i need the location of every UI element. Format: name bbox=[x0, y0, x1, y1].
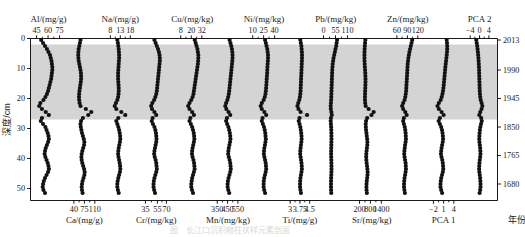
tick-label: 550 bbox=[232, 205, 244, 214]
data-point bbox=[369, 113, 373, 117]
tick-label: 20 bbox=[187, 26, 195, 35]
tick-label: 32 bbox=[198, 26, 206, 35]
data-point bbox=[154, 113, 158, 117]
depth-axis-label: 深度/cm bbox=[1, 103, 12, 136]
tick-label: 4 bbox=[452, 205, 456, 214]
panel-title-Al: Al/(mg/g) bbox=[30, 14, 66, 24]
panel-title-Cu: Cu/(mg/kg) bbox=[171, 14, 213, 24]
tick-label: 13 bbox=[116, 26, 124, 35]
data-point bbox=[263, 191, 267, 195]
panel-title-PCA2: PCA 2 bbox=[468, 14, 492, 24]
tick-label: −2 bbox=[429, 205, 438, 214]
tick-label: 40 bbox=[70, 205, 78, 214]
tick-label: 120 bbox=[412, 26, 424, 35]
data-point bbox=[114, 107, 118, 111]
data-point bbox=[123, 113, 127, 117]
year-tick-label: 1990 bbox=[503, 66, 519, 75]
data-point bbox=[440, 191, 444, 195]
panel-title-Ti: Ti/(mg/g) bbox=[283, 215, 318, 225]
tick-label: 0 bbox=[321, 26, 325, 35]
data-point bbox=[365, 191, 369, 195]
data-point bbox=[192, 113, 196, 117]
tick-label: 8 bbox=[179, 26, 183, 35]
tick-label: 70 bbox=[162, 205, 170, 214]
panel-title-Cr: Cr/(mg/kg) bbox=[136, 215, 177, 225]
tick-label: 8 bbox=[108, 26, 112, 35]
tick-label: 45 bbox=[32, 26, 40, 35]
data-point bbox=[227, 191, 231, 195]
data-point bbox=[228, 113, 232, 117]
tick-label: −4 bbox=[466, 26, 475, 35]
tick-label: 1 bbox=[442, 205, 446, 214]
data-point bbox=[119, 110, 123, 114]
depth-tick-label: 0 bbox=[21, 34, 25, 43]
year-tick-label: 2013 bbox=[503, 36, 519, 45]
year-tick-label: 1680 bbox=[503, 180, 519, 189]
data-point bbox=[403, 191, 407, 195]
tick-label: 40 bbox=[270, 26, 278, 35]
tick-label: 3 bbox=[288, 205, 292, 214]
tick-label: 0 bbox=[477, 26, 481, 35]
data-point bbox=[44, 110, 48, 114]
panel-title-Zn: Zn/(mg/kg) bbox=[387, 14, 429, 24]
year-tick-label: 1765 bbox=[503, 151, 519, 160]
tick-label: 25 bbox=[260, 26, 268, 35]
year-axis: 201319901945185017651680年份 bbox=[498, 36, 525, 225]
panel-title-Ni: Ni/(mg/kg) bbox=[244, 14, 285, 24]
figure-caption: 图 长江口沉积物柱状样元素剖面 bbox=[170, 225, 290, 235]
data-point bbox=[364, 104, 368, 108]
shaded-interval-band bbox=[31, 45, 498, 120]
panel-title-Pb: Pb/(mg/kg) bbox=[315, 14, 356, 24]
depth-tick-label: 20 bbox=[17, 94, 25, 103]
data-point bbox=[89, 110, 93, 114]
tick-label: 75 bbox=[55, 26, 63, 35]
depth-axis: 01020304050深度/cm bbox=[1, 34, 31, 193]
tick-label: 110 bbox=[342, 26, 354, 35]
tick-label: 110 bbox=[89, 205, 101, 214]
depth-tick-label: 30 bbox=[17, 124, 25, 133]
data-point bbox=[305, 113, 309, 117]
tick-label: 35 bbox=[141, 205, 149, 214]
tick-label: 75 bbox=[80, 205, 88, 214]
chart-canvas: 456075Al/(mg/g)4075110Ca/(mg/g)81318Na/(… bbox=[0, 0, 525, 237]
data-point bbox=[117, 191, 121, 195]
data-point bbox=[298, 110, 302, 114]
tick-label: 4.5 bbox=[305, 205, 315, 214]
data-point bbox=[264, 113, 268, 117]
figure-root: 456075Al/(mg/g)4075110Ca/(mg/g)81318Na/(… bbox=[0, 0, 525, 237]
year-tick-label: 1945 bbox=[503, 94, 519, 103]
panel-title-Sr: Sr/(mg/kg) bbox=[352, 215, 392, 225]
tick-label: 10 bbox=[249, 26, 257, 35]
data-point bbox=[442, 113, 446, 117]
tick-label: 55 bbox=[153, 205, 161, 214]
depth-tick-label: 50 bbox=[17, 184, 25, 193]
tick-label: 90 bbox=[403, 26, 411, 35]
data-point bbox=[40, 107, 44, 111]
panel-title-Ca: Ca/(mg/g) bbox=[66, 215, 103, 225]
data-point bbox=[78, 104, 82, 108]
data-point bbox=[43, 191, 47, 195]
year-tick-label: 1850 bbox=[503, 123, 519, 132]
panel-title-PCA1: PCA 1 bbox=[432, 215, 456, 225]
data-point bbox=[367, 107, 371, 111]
data-point bbox=[86, 113, 90, 117]
data-point bbox=[191, 191, 195, 195]
data-point bbox=[80, 191, 84, 195]
depth-tick-label: 40 bbox=[17, 154, 25, 163]
data-point bbox=[41, 98, 45, 102]
depth-tick-label: 10 bbox=[17, 64, 25, 73]
data-point bbox=[478, 191, 482, 195]
data-point bbox=[153, 191, 157, 195]
tick-label: 55 bbox=[331, 26, 339, 35]
panel-title-Mn: Mn/(mg/kg) bbox=[206, 215, 250, 225]
tick-label: 1400 bbox=[373, 205, 389, 214]
tick-label: 60 bbox=[393, 26, 401, 35]
data-point bbox=[299, 191, 303, 195]
panel-title-Na: Na/(mg/g) bbox=[102, 14, 140, 24]
data-point bbox=[84, 107, 88, 111]
tick-label: 60 bbox=[44, 26, 52, 35]
tick-label: 18 bbox=[126, 26, 134, 35]
year-axis-label: 年份 bbox=[508, 214, 525, 225]
tick-label: 4 bbox=[487, 26, 491, 35]
data-point bbox=[329, 191, 333, 195]
